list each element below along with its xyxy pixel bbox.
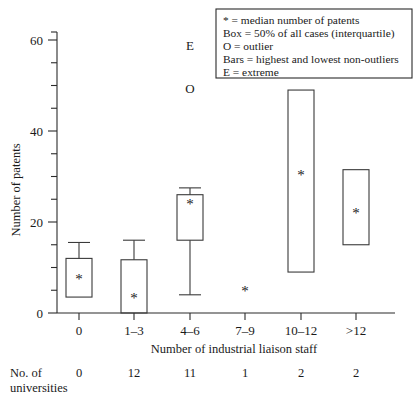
legend-entry: O = outlier <box>223 40 273 52</box>
y-axis-title: Number of patents <box>9 143 23 236</box>
footer-university-count: 0 <box>76 366 82 380</box>
x-axis-tick-label: 0 <box>76 323 83 338</box>
x-axis-tick-label: >12 <box>346 323 366 338</box>
extreme-marker: E <box>186 38 194 53</box>
footer-university-count: 11 <box>184 366 196 380</box>
y-axis-tick-label: 0 <box>37 306 44 321</box>
x-axis-tick-label: 7–9 <box>235 323 255 338</box>
y-axis-tick-label: 40 <box>30 124 43 139</box>
footer-label-line2: universities <box>10 381 68 395</box>
median-marker: * <box>130 290 138 306</box>
y-axis-tick-label: 20 <box>30 215 43 230</box>
boxplot-chart: 0204060Number of patents01–34–67–910–12>… <box>0 0 417 401</box>
legend-entry: Box = 50% of all cases (interquartile) <box>223 27 395 40</box>
legend-entry: E = extreme <box>223 66 279 78</box>
legend-entry: * = median number of patents <box>223 14 360 26</box>
x-axis-tick-label: 10–12 <box>285 323 318 338</box>
footer-university-count: 1 <box>242 366 248 380</box>
footer-university-count: 2 <box>298 366 304 380</box>
median-marker: * <box>297 167 305 183</box>
median-marker: * <box>186 196 194 212</box>
legend-entry: Bars = highest and lowest non-outliers <box>223 53 399 65</box>
outlier-marker: O <box>185 81 194 96</box>
x-axis-tick-label: 1–3 <box>124 323 144 338</box>
y-axis-tick-label: 60 <box>30 33 43 48</box>
median-marker: * <box>352 205 360 221</box>
footer-university-count: 2 <box>353 366 359 380</box>
footer-university-count: 12 <box>128 366 141 380</box>
footer-label-line1: No. of <box>10 366 43 380</box>
median-marker: * <box>241 283 249 299</box>
median-marker: * <box>75 271 83 287</box>
chart-canvas: 0204060Number of patents01–34–67–910–12>… <box>0 0 417 401</box>
x-axis-tick-label: 4–6 <box>180 323 200 338</box>
x-axis-title: Number of industrial liaison staff <box>151 342 318 356</box>
